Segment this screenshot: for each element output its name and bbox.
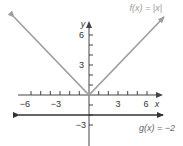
- graph: −6 −3 3 6 x 6 3 −3 y f(x) = |x| g(x) = −…: [0, 0, 183, 146]
- y-axis-label: y: [80, 19, 86, 29]
- x-axis-label: x: [154, 99, 160, 109]
- x-tick-label: −3: [51, 99, 61, 109]
- y-tick-label: −3: [76, 120, 86, 130]
- x-tick-label: 6: [143, 99, 148, 109]
- x-tick-label: −6: [20, 99, 30, 109]
- f-label: f(x) = |x|: [130, 3, 162, 13]
- y-axis-arrow-icon: [86, 21, 92, 28]
- g-label: g(x) = −2: [139, 123, 175, 133]
- x-tick-label: 3: [115, 99, 120, 109]
- y-tick-label: 3: [79, 60, 84, 70]
- x-axis-arrow-icon: [156, 92, 163, 98]
- y-ticks: [89, 35, 93, 125]
- y-tick-label: 6: [79, 30, 84, 40]
